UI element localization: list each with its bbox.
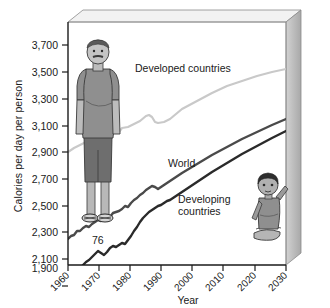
x-axis-tick-labels: 1960 1970 1980 1990 2000 2010 2020 2030 — [48, 269, 290, 293]
y-tick-label: 2,500 — [32, 200, 58, 212]
y-tick-label: 3,100 — [32, 120, 58, 132]
x-tick-label: 2010 — [203, 269, 227, 293]
plot-box-top-face — [68, 10, 301, 22]
y-tick-label: 2,300 — [32, 226, 58, 238]
y-tick-label: 3,700 — [32, 39, 58, 51]
y-tick-label: 2,700 — [32, 173, 58, 185]
annotation-label-developed-countries: Developed countries — [135, 62, 231, 74]
x-tick-label: 2000 — [172, 269, 196, 293]
x-tick-label: 1970 — [79, 269, 103, 293]
chart-figure: 3,700 3,500 3,300 3,100 2,900 2,700 2,50… — [0, 0, 330, 308]
annotation-label-world: World — [168, 157, 195, 169]
plot-box-right-face — [286, 10, 301, 265]
x-axis-title: Year — [177, 294, 199, 306]
annotation-label-76: 76 — [92, 234, 104, 246]
x-tick-label: 2020 — [235, 269, 259, 293]
y-tick-label: 1,900 — [32, 262, 58, 274]
y-axis-ticks — [62, 45, 68, 286]
y-tick-label: 3,300 — [32, 93, 58, 105]
annotation-label-developing-countries-line1: Developing — [178, 193, 231, 205]
x-axis-ticks — [68, 265, 286, 271]
y-tick-label: 3,500 — [32, 66, 58, 78]
x-tick-label: 1980 — [110, 269, 134, 293]
annotation-label-developing-countries-line2: countries — [178, 205, 221, 217]
y-axis-tick-labels: 3,700 3,500 3,300 3,100 2,900 2,700 2,50… — [32, 39, 58, 274]
calories-per-day-line-chart: 3,700 3,500 3,300 3,100 2,900 2,700 2,50… — [0, 0, 330, 308]
x-tick-label: 2030 — [266, 269, 290, 293]
x-tick-label: 1990 — [141, 269, 165, 293]
y-tick-label: 2,900 — [32, 146, 58, 158]
